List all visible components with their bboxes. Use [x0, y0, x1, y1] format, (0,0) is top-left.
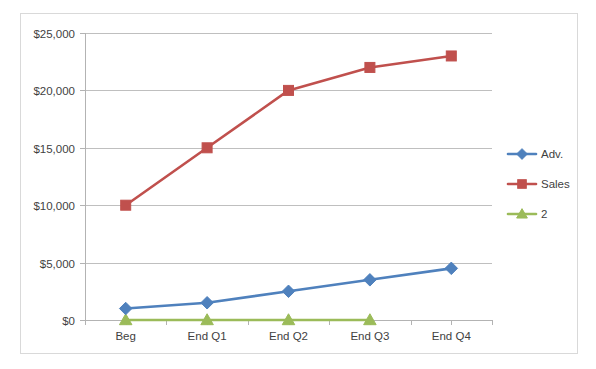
y-axis-tick-labels: $0$5,000$10,000$15,000$20,000$25,000	[33, 28, 75, 327]
y-tick-label: $10,000	[33, 200, 75, 212]
legend-item-2[interactable]: 2	[508, 208, 547, 220]
data-series-layer	[119, 51, 457, 325]
data-point-marker[interactable]	[517, 149, 528, 160]
series-sales	[121, 51, 457, 210]
x-tick-label: End Q3	[350, 330, 389, 342]
data-point-marker[interactable]	[201, 297, 214, 310]
x-tick-label: End Q4	[432, 330, 472, 342]
legend-label: 2	[541, 208, 547, 220]
data-point-marker[interactable]	[121, 200, 131, 210]
x-axis-tick-labels: BegEnd Q1End Q2End Q3End Q4	[115, 330, 471, 342]
series-2	[119, 314, 376, 325]
data-point-marker[interactable]	[282, 285, 295, 298]
y-tick-label: $5,000	[40, 258, 75, 270]
line-chart[interactable]: $0$5,000$10,000$15,000$20,000$25,000 Beg…	[0, 0, 596, 369]
legend-label: Adv.	[541, 148, 563, 160]
x-tick-label: End Q2	[269, 330, 308, 342]
series-line	[126, 56, 452, 205]
data-point-marker[interactable]	[119, 302, 132, 315]
x-tick-label: End Q1	[188, 330, 227, 342]
legend-label: Sales	[541, 178, 570, 190]
data-point-marker[interactable]	[284, 85, 294, 95]
y-tick-label: $15,000	[33, 143, 75, 155]
y-tick-label: $20,000	[33, 85, 75, 97]
series-adv	[119, 262, 457, 315]
x-tick-label: Beg	[115, 330, 135, 342]
y-tick-label: $0	[62, 315, 75, 327]
y-tick-label: $25,000	[33, 28, 75, 40]
data-point-marker[interactable]	[364, 274, 377, 287]
legend-item-adv[interactable]: Adv.	[508, 148, 563, 160]
data-point-marker[interactable]	[518, 180, 527, 189]
legend-item-sales[interactable]: Sales	[508, 178, 570, 190]
data-point-marker[interactable]	[446, 51, 456, 61]
gridlines-group	[80, 34, 492, 321]
data-point-marker[interactable]	[365, 62, 375, 72]
chart-legend[interactable]: Adv.Sales2	[508, 148, 570, 220]
data-point-marker[interactable]	[202, 143, 212, 153]
